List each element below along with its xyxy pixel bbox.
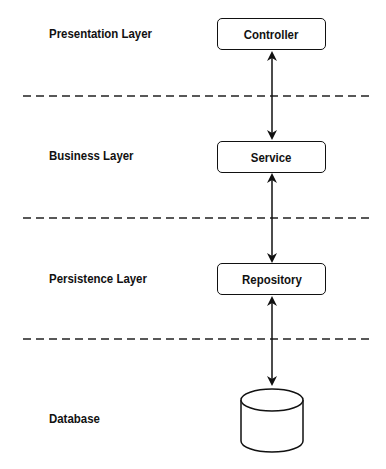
service-box: Service <box>217 141 326 173</box>
business-layer-label: Business Layer <box>49 148 134 163</box>
database-layer-label: Database <box>49 411 100 426</box>
repository-label: Repository <box>242 272 302 287</box>
controller-label: Controller <box>244 27 299 42</box>
controller-box: Controller <box>217 18 326 50</box>
service-label: Service <box>251 150 292 165</box>
diagram-canvas <box>0 0 386 469</box>
repository-box: Repository <box>217 263 326 295</box>
presentation-layer-label: Presentation Layer <box>49 26 152 41</box>
database-cylinder-icon <box>241 389 303 452</box>
persistence-layer-label: Persistence Layer <box>49 271 147 286</box>
